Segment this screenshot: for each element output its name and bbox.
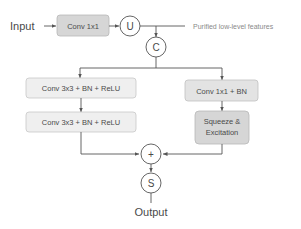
add-node: + xyxy=(141,144,161,164)
right-to-add-arrow xyxy=(163,144,222,154)
output-label: Output xyxy=(134,206,167,218)
left-conv-block-1: Conv 3x3 + BN + ReLU xyxy=(26,78,136,98)
add-node-label: + xyxy=(148,149,154,160)
right-conv-block: Conv 1x1 + BN xyxy=(185,80,258,101)
input-label: Input xyxy=(10,20,34,32)
squeeze-excitation-block: Squeeze & Excitation xyxy=(195,111,249,144)
right-conv-label: Conv 1x1 + BN xyxy=(196,87,247,96)
network-diagram: Input Conv 1x1 U Purified low-level feat… xyxy=(0,0,301,229)
left-conv-1-label: Conv 3x3 + BN + ReLU xyxy=(42,84,120,93)
se-label-line1: Squeeze & xyxy=(204,117,241,126)
concat-node: C xyxy=(146,37,166,57)
purified-features-label: Purified low-level features xyxy=(193,23,274,30)
left-to-add-arrow xyxy=(81,132,139,154)
left-conv-2-label: Conv 3x3 + BN + ReLU xyxy=(42,118,120,127)
conv1x1-label: Conv 1x1 xyxy=(67,22,99,31)
concat-node-label: C xyxy=(152,42,159,53)
se-label-line2: Excitation xyxy=(206,128,239,137)
sigmoid-node-label: S xyxy=(148,178,155,189)
upsample-node: U xyxy=(120,16,140,36)
left-conv-block-2: Conv 3x3 + BN + ReLU xyxy=(26,112,136,132)
conv1x1-block: Conv 1x1 xyxy=(57,15,109,36)
upsample-node-label: U xyxy=(126,21,133,32)
sigmoid-node: S xyxy=(141,173,161,193)
